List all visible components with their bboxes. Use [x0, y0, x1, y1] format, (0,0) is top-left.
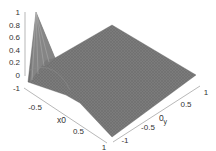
x-tick-0.5: 0.5	[73, 127, 85, 136]
z-tick-0: 0	[16, 71, 21, 80]
y-tick-1: 1	[204, 88, 209, 97]
surface-mesh	[28, 12, 196, 137]
y-tick--1: -1	[121, 136, 129, 145]
z-axis: 1 0.8 0.6 0.4 0.2 0	[9, 8, 25, 80]
z-tick-1: 1	[16, 8, 21, 17]
z-tick-0.8: 0.8	[9, 21, 21, 30]
x-tick-1: 1	[102, 143, 107, 151]
z-tick-0.6: 0.6	[9, 33, 21, 42]
x-axis-label: x0	[57, 115, 66, 125]
z-tick-0.4: 0.4	[9, 46, 21, 55]
x-tick--0.5: -0.5	[28, 103, 42, 112]
surface-plot: 1 0.8 0.6 0.4 0.2 0 -1 -0.5 x0 0.5 1 -1 …	[0, 0, 216, 151]
x-tick--1: -1	[13, 84, 21, 93]
y-tick-0.5: 0.5	[180, 100, 192, 109]
y-tick--0.5: -0.5	[141, 123, 155, 132]
y-axis-label: 0y	[159, 113, 168, 126]
z-tick-0.2: 0.2	[9, 58, 21, 67]
